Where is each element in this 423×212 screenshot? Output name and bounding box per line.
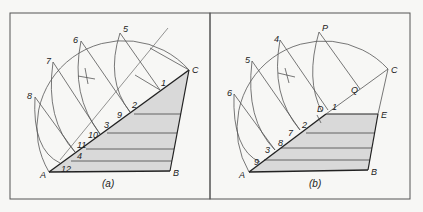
geometry-diagram: A B C 5 6 7 8 1 2 3 4 9 10 11 12 (a): [0, 0, 423, 212]
line-label-10: 10: [88, 130, 98, 140]
arc-point-7: 7: [46, 56, 52, 66]
arc-point-5: 5: [245, 55, 251, 65]
line-label-8: 8: [278, 138, 283, 148]
line-label-4: 4: [77, 151, 82, 161]
vertex-c-label: C: [391, 65, 398, 75]
vertex-a-label: A: [238, 170, 245, 180]
line-label-2: 2: [301, 120, 307, 130]
line-label-1: 1: [332, 102, 337, 112]
line-label-2: 2: [131, 100, 137, 110]
figure: A B C 5 6 7 8 1 2 3 4 9 10 11 12 (a): [0, 0, 423, 212]
arc-point-6: 6: [73, 35, 78, 45]
vertex-e-label: E: [381, 110, 388, 120]
vertex-q-label: Q: [351, 85, 358, 95]
vertex-b-label: B: [371, 167, 377, 177]
arc-point-8: 8: [27, 91, 32, 101]
vertex-a-label: A: [39, 170, 46, 180]
line-label-3: 3: [265, 145, 270, 155]
line-label-1: 1: [161, 78, 166, 88]
line-label-9: 9: [117, 110, 122, 120]
arc-point-5: 5: [123, 24, 129, 34]
vertex-b-label: B: [173, 168, 179, 178]
caption-a: (a): [102, 178, 114, 189]
panel-a: A B C 5 6 7 8 1 2 3 4 9 10 11 12 (a): [27, 24, 199, 189]
arc-point-4: 4: [274, 34, 279, 44]
vertex-d-label: D: [317, 104, 324, 114]
caption-b: (b): [309, 178, 321, 189]
panel-b: A B C D E P Q 4 5 6 1 2 3 7 8 9 (b): [227, 23, 398, 189]
line-label-11: 11: [77, 140, 86, 150]
line-label-3: 3: [104, 120, 109, 130]
line-label-9: 9: [254, 157, 259, 167]
vertex-p-label: P: [322, 23, 328, 33]
line-label-12: 12: [61, 164, 71, 174]
line-label-7: 7: [288, 128, 294, 138]
vertex-c-label: C: [192, 65, 199, 75]
arc-point-6: 6: [227, 88, 232, 98]
